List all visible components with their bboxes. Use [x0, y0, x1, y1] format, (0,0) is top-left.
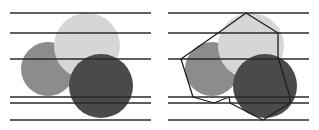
figure-canvas	[0, 0, 319, 130]
dark-circle	[233, 54, 297, 118]
left-panel	[10, 13, 151, 120]
right-panel	[168, 13, 309, 120]
dark-circle	[69, 54, 133, 118]
overlapping-circles-diagram	[0, 0, 319, 130]
